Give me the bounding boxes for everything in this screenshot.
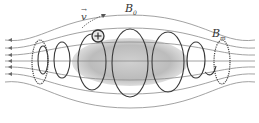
left-mirror-coil <box>32 40 48 84</box>
velocity-label: → v <box>81 11 87 22</box>
field-line-arrows <box>8 38 12 76</box>
diagram-canvas <box>0 0 259 123</box>
vector-arrow-icon: → <box>81 6 87 14</box>
magnetic-mirror-diagram: → v B0 Bm <box>0 0 259 123</box>
field-center-label: B0 <box>125 3 137 16</box>
plasma-region <box>72 38 188 86</box>
field-max-label: Bm <box>212 28 226 41</box>
right-mirror-coil <box>214 40 230 84</box>
charged-particle <box>92 30 104 42</box>
